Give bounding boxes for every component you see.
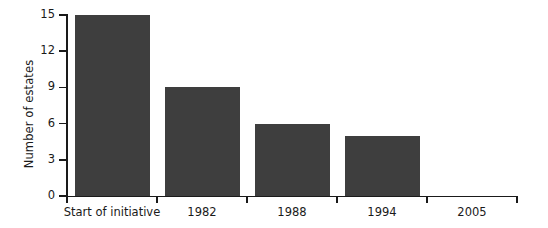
- y-axis-tick-label: 12: [29, 45, 55, 57]
- y-axis-tick-label: 6: [29, 118, 55, 130]
- bar: [255, 124, 330, 196]
- y-axis-tick-label-wrap: 9: [0, 81, 55, 93]
- x-axis-tick: [426, 196, 428, 203]
- x-axis-tick: [246, 196, 248, 203]
- plot-area: [67, 15, 517, 196]
- y-axis-tick-label: 9: [29, 81, 55, 93]
- x-axis-tick: [516, 196, 518, 203]
- bar: [165, 87, 240, 196]
- bar-chart: Number of estates 03691215 Start of init…: [0, 0, 548, 228]
- y-axis-tick-label: 15: [29, 9, 55, 21]
- y-axis-tick-label-wrap: 12: [0, 45, 55, 57]
- x-axis-tick: [156, 196, 158, 203]
- x-axis-tick-label: 1988: [277, 206, 306, 219]
- x-axis-tick: [336, 196, 338, 203]
- y-axis-tick-label-wrap: 0: [0, 190, 55, 202]
- y-axis-tick-label-wrap: 3: [0, 154, 55, 166]
- x-axis-tick-label: 1982: [187, 206, 216, 219]
- x-axis-tick-label: 1994: [367, 206, 396, 219]
- x-axis-tick: [66, 196, 68, 203]
- bar: [345, 136, 420, 196]
- y-axis-tick: [59, 14, 67, 16]
- bar: [75, 15, 150, 196]
- x-axis-tick-label: Start of initiative: [64, 206, 161, 219]
- y-axis-tick: [59, 87, 67, 89]
- y-axis-tick: [59, 123, 67, 125]
- y-axis-tick-label-wrap: 6: [0, 118, 55, 130]
- y-axis-tick-label-wrap: 15: [0, 9, 55, 21]
- y-axis-tick: [59, 159, 67, 161]
- y-axis-tick-label: 3: [29, 154, 55, 166]
- y-axis-tick: [59, 50, 67, 52]
- x-axis-tick-label: 2005: [457, 206, 486, 219]
- y-axis-tick-label: 0: [29, 190, 55, 202]
